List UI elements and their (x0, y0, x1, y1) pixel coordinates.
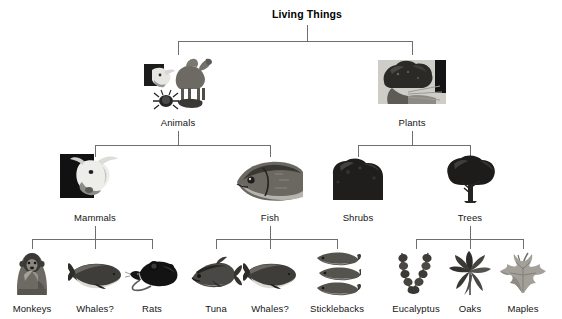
connector-fish-bar (216, 239, 338, 240)
leaf-label-eucalyptus: Eucalyptus (392, 303, 439, 314)
connector-root-bar (178, 41, 413, 42)
oaks-image (447, 249, 493, 297)
tuna-image (190, 256, 242, 292)
connector-mammals-bar (32, 239, 153, 240)
monkeys-image (12, 251, 52, 295)
whales-fish-image (243, 260, 297, 290)
node-label-fish: Fish (261, 212, 279, 223)
maple-leaf-icon (498, 249, 548, 297)
connector-root-stem (307, 25, 308, 41)
sticklebacks-image (313, 250, 361, 296)
rats-image (124, 258, 180, 292)
node-label-animals: Animals (161, 117, 196, 128)
whale-icon (68, 260, 122, 290)
connector-trees-stem (470, 226, 471, 239)
node-label-shrubs: Shrubs (343, 212, 374, 223)
connector-fish-to-tuna (216, 239, 217, 249)
connector-mammals-to-monkeys (32, 239, 33, 249)
connector-root-to-plants (412, 41, 413, 55)
animals-image (142, 56, 214, 114)
connector-animals-bar (95, 145, 271, 146)
monkey-icon (12, 251, 52, 295)
maples-image (498, 249, 548, 297)
connector-mammals-stem (95, 226, 96, 239)
plant-photo-icon (378, 56, 446, 114)
eucalyptus-icon (396, 249, 436, 297)
connector-trees-to-oaks (470, 239, 471, 249)
connector-animals-to-fish (270, 145, 271, 157)
node-label-trees: Trees (458, 212, 482, 223)
leaf-label-oaks: Oaks (459, 303, 482, 314)
diagram-canvas: Living Things (0, 0, 562, 319)
fish-head-icon (235, 158, 305, 204)
tree-icon (442, 155, 498, 205)
leaf-label-whales-fish: Whales? (251, 303, 289, 314)
whale-icon (243, 260, 297, 290)
connector-plants-to-shrubs (358, 145, 359, 157)
stickleback-icon (313, 250, 361, 296)
connector-trees-to-maples (523, 239, 524, 249)
connector-mammals-to-rats (152, 239, 153, 249)
connector-plants-bar (358, 145, 470, 146)
plants-image (378, 56, 446, 114)
eucalyptus-image (396, 249, 436, 297)
connector-animals-stem (178, 131, 179, 145)
connector-mammals-to-whales (95, 239, 96, 249)
node-label-mammals: Mammals (74, 212, 116, 223)
connector-trees-to-eucalyptus (416, 239, 417, 249)
connector-fish-stem (270, 226, 271, 239)
connector-root-to-animals (178, 41, 179, 55)
connector-fish-to-whales (270, 239, 271, 249)
oak-leaf-icon (447, 249, 493, 297)
connector-fish-to-sticklebacks (337, 239, 338, 249)
connector-plants-stem (412, 131, 413, 145)
leaf-label-rats: Rats (142, 303, 162, 314)
leaf-label-whales-mammal: Whales? (76, 303, 114, 314)
shrubs-image (330, 158, 386, 204)
node-label-plants: Plants (398, 117, 425, 128)
shrub-icon (330, 158, 386, 204)
mammals-image (58, 152, 132, 204)
cow-head-icon (58, 152, 132, 204)
leaf-label-maples: Maples (507, 303, 538, 314)
root-node-label: Living Things (272, 8, 342, 20)
leaf-label-sticklebacks: Sticklebacks (310, 303, 364, 314)
tuna-icon (190, 256, 242, 292)
leaf-label-tuna: Tuna (205, 303, 227, 314)
camel-cow-beetle-collage-icon (142, 56, 214, 114)
rat-icon (124, 258, 180, 292)
fish-image (235, 158, 305, 204)
trees-image (442, 155, 498, 205)
leaf-label-monkeys: Monkeys (13, 303, 52, 314)
whales-mammal-image (68, 260, 122, 290)
